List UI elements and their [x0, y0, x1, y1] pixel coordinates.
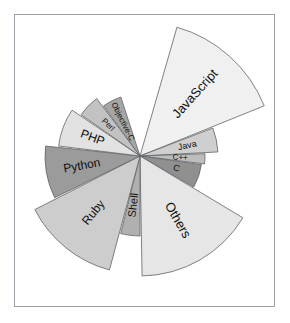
wedge-label-c-: C++ — [173, 153, 189, 163]
rose-chart-figure: JavaScriptJavaC++COthersShellRubyPythonP… — [0, 0, 290, 323]
rose-chart-svg: JavaScriptJavaC++COthersShellRubyPythonP… — [0, 0, 290, 323]
wedge-group — [35, 27, 264, 276]
